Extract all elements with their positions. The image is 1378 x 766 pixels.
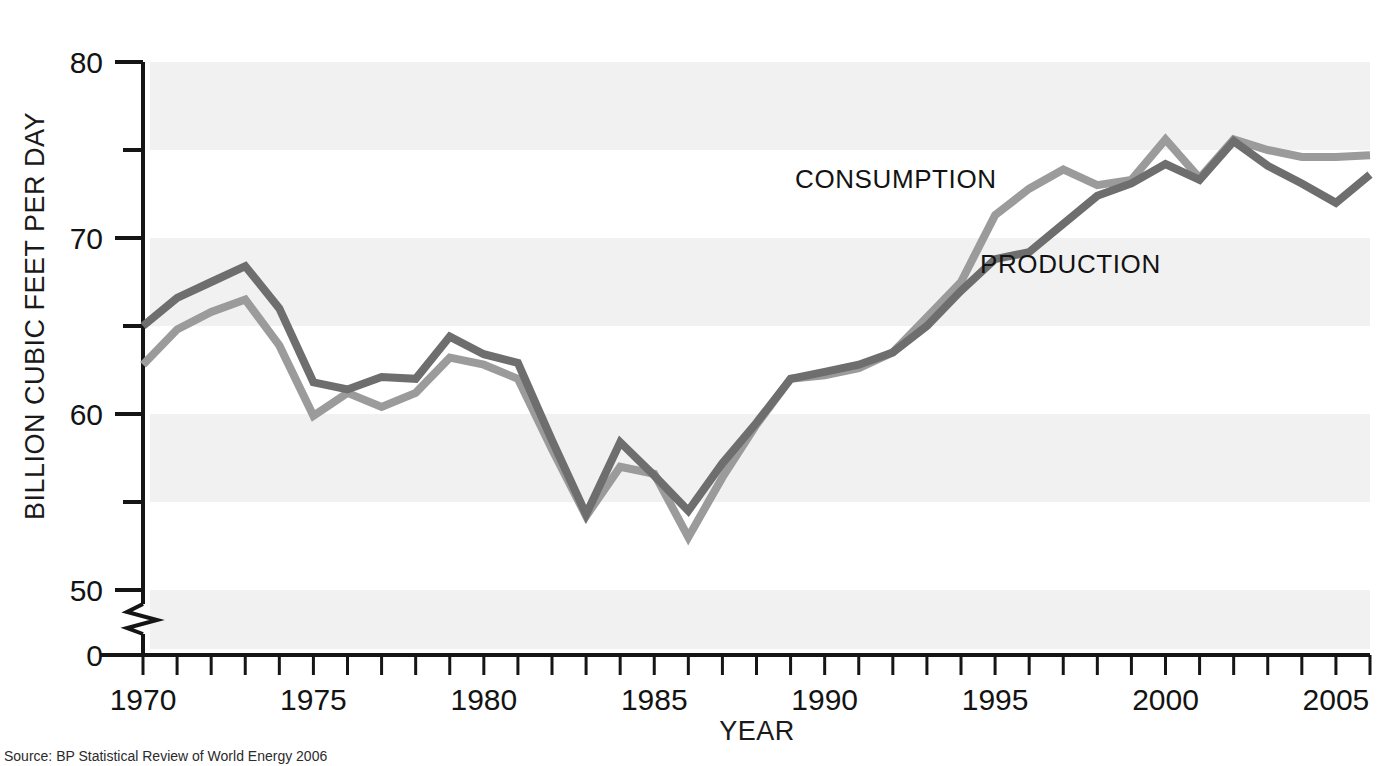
x-axis-title: YEAR: [719, 716, 795, 746]
x-tick-label: 1990: [791, 683, 858, 716]
y-axis-ticks: [115, 62, 143, 590]
series-label-consumption: CONSUMPTION: [795, 164, 997, 194]
x-tick-label: 1970: [110, 683, 177, 716]
x-tick-label: 1995: [962, 683, 1029, 716]
y-tick-label: 80: [70, 46, 103, 79]
y-tick-label: 60: [70, 398, 103, 431]
line-chart: 19701975198019851990199520002005 8070605…: [0, 0, 1378, 766]
y-axis-title: BILLION CUBIC FEET PER DAY: [20, 112, 50, 520]
x-tick-label: 1985: [621, 683, 688, 716]
source-prefix: Source:: [4, 748, 52, 764]
x-tick-label: 2000: [1132, 683, 1199, 716]
source-caption: Source: BP Statistical Review of World E…: [4, 748, 327, 764]
x-tick-label: 2005: [1303, 683, 1370, 716]
series-label-production: PRODUCTION: [980, 249, 1161, 279]
x-tick-label: 1980: [450, 683, 517, 716]
x-axis-ticks: [143, 655, 1370, 675]
y-tick-label: 50: [70, 574, 103, 607]
x-tick-label: 1975: [280, 683, 347, 716]
y-tick-label: 0: [86, 639, 103, 672]
y-tick-label: 70: [70, 222, 103, 255]
y-axis-tick-labels: 807060500: [70, 46, 103, 672]
chart-figure: 19701975198019851990199520002005 8070605…: [0, 0, 1378, 766]
x-axis-tick-labels: 19701975198019851990199520002005: [110, 683, 1370, 716]
chart-background-bands: [150, 62, 1370, 649]
source-value: BP Statistical Review of World Energy 20…: [56, 748, 327, 764]
